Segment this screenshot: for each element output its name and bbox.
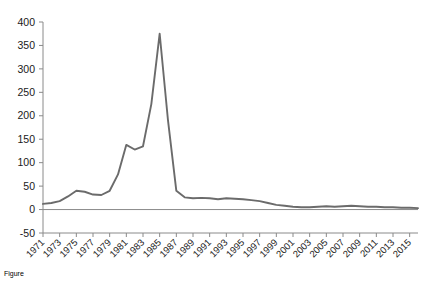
y-axis-tick-label: 0	[29, 203, 35, 215]
data-series	[43, 34, 418, 208]
y-axis-tick-label: 200	[17, 109, 35, 121]
x-axis: 1971197319751977197919811983198519871989…	[24, 233, 418, 259]
y-axis-tick-label: 350	[17, 39, 35, 51]
y-axis-tick-label: 400	[17, 16, 35, 28]
line-chart: -50050100150200250300350400 197119731975…	[0, 0, 433, 282]
y-axis: -50050100150200250300350400	[17, 16, 43, 239]
chart-container: -50050100150200250300350400 197119731975…	[0, 0, 433, 282]
y-axis-tick-label: 100	[17, 156, 35, 168]
y-axis-tick-label: -50	[20, 227, 35, 239]
x-axis-tick-label: 2015	[390, 237, 413, 260]
series-line-value	[43, 34, 418, 208]
figure-caption: Figure	[4, 270, 24, 277]
y-axis-tick-label: 150	[17, 133, 35, 145]
y-axis-tick-label: 300	[17, 63, 35, 75]
y-axis-tick-label: 250	[17, 86, 35, 98]
y-axis-tick-label: 50	[23, 180, 35, 192]
